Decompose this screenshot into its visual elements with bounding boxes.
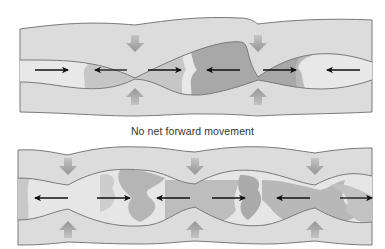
- bottom-segmentation-panel: [0, 140, 385, 249]
- top-segmentation-panel: [0, 0, 385, 125]
- figure-caption: No net forward movement: [0, 125, 385, 137]
